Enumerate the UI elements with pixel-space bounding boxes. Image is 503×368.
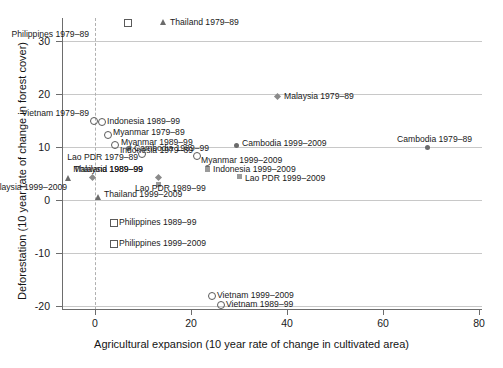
data-point-marker [90, 117, 98, 125]
data-point-marker [138, 150, 146, 158]
data-point-marker [205, 167, 210, 172]
x-tick-60 [383, 310, 384, 315]
data-point-marker [193, 152, 201, 160]
y-tick-neg10 [56, 253, 62, 254]
data-point-marker [124, 19, 132, 27]
data-point-label: Malaysia 1989–99 [73, 165, 143, 174]
data-point-marker [425, 145, 430, 150]
data-point-label: Cambodia 1999–2009 [242, 139, 327, 148]
data-point-marker [160, 19, 166, 25]
y-tick-20 [56, 94, 62, 95]
data-point-label: Vietnam 1989–99 [226, 300, 293, 309]
x-tick-label-80: 80 [459, 317, 499, 329]
x-tick-label-20: 20 [171, 317, 211, 329]
data-point-label: Philippines 1999–2009 [119, 239, 206, 248]
data-point-label: Thailand 1999–2009 [104, 190, 182, 199]
y-tick-30 [56, 41, 62, 42]
scatter-chart: 30 20 10 0 -10 -20 0 20 40 60 80 Agricul… [0, 0, 503, 368]
x-tick-80 [479, 310, 480, 315]
y-tick-label-neg20: -20 [14, 300, 50, 312]
data-point-label: Vietnam 1979–89 [22, 109, 89, 118]
y-axis-title: Deforestation (10 year rate of change in… [16, 42, 28, 300]
data-point-marker [65, 175, 71, 181]
data-point-label: Philippines 1979–89 [12, 30, 89, 39]
data-point-label: Indonesia 1989–99 [107, 117, 180, 126]
data-point-label: Philippines 1989–99 [119, 218, 196, 227]
data-point-marker [217, 301, 225, 309]
data-point-marker [234, 143, 239, 148]
y-tick-0 [56, 200, 62, 201]
data-point-label: Thailand 1979–89 [170, 18, 239, 27]
x-tick-label-60: 60 [363, 317, 403, 329]
x-tick-20 [191, 310, 192, 315]
y-tick-10 [56, 147, 62, 148]
data-point-label: Cambodia 1979–89 [397, 135, 472, 144]
data-point-marker [208, 292, 216, 300]
data-point-marker [98, 118, 106, 126]
data-point-marker [95, 194, 101, 200]
x-tick-0 [95, 310, 96, 315]
data-point-label: Malaysia 1999–2009 [0, 183, 67, 192]
data-point-label: Malaysia 1979–89 [284, 92, 354, 101]
data-point-label: Lao PDR 1979–89 [67, 153, 138, 162]
x-tick-label-0: 0 [75, 317, 115, 329]
data-point-label: Myanmar 1979–89 [113, 128, 185, 137]
data-point-marker [104, 131, 112, 139]
data-point-marker [237, 174, 242, 179]
data-point-marker [110, 240, 118, 248]
x-axis-title: Agricultural expansion (10 year rate of … [0, 338, 503, 350]
data-point-marker [110, 219, 118, 227]
x-tick-40 [287, 310, 288, 315]
data-point-label: Lao PDR 1999–2009 [245, 174, 325, 183]
data-point-marker [111, 141, 119, 149]
x-tick-label-40: 40 [267, 317, 307, 329]
y-tick-neg20 [56, 306, 62, 307]
